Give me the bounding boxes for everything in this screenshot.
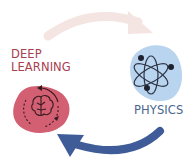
physics-label: PHYSICS <box>134 104 183 117</box>
deep-learning-label-line2: LEARNING <box>11 61 71 74</box>
arrow-to-deep-learning <box>57 131 160 157</box>
deep-learning-label: DEEP LEARNING <box>11 48 71 74</box>
diagram-canvas <box>0 0 195 165</box>
arrow-to-physics <box>48 11 153 36</box>
